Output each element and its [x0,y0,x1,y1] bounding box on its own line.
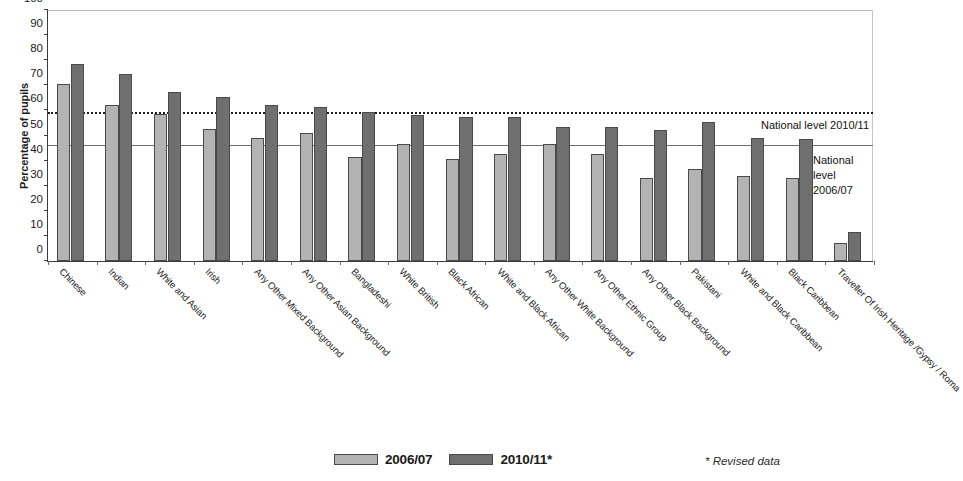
bar-group [203,10,230,261]
x-axis-label: Traveller Of Irish Heritage /Gypsy / Rom… [835,266,963,394]
y-tick-label: 20 [30,193,43,205]
bar-group [543,10,570,261]
legend-item: 2006/07 [334,452,432,467]
bar-group [591,10,618,261]
bar-series-2006 [446,159,459,261]
x-tick-mark [874,261,875,265]
y-tick-label: 30 [30,168,43,180]
bar-group [786,10,813,261]
y-tick-label: 10 [30,218,43,230]
bar-series-2010 [71,64,84,261]
x-tick-mark [582,261,583,265]
x-tick-mark [680,261,681,265]
bar-series-2006 [834,243,847,261]
x-axis-label: Any Other Mixed Background [252,266,346,360]
bar-series-2010 [556,127,569,261]
bar-series-2010 [702,122,715,261]
bar-group [640,10,667,261]
bar-group [688,10,715,261]
x-tick-mark [728,261,729,265]
x-axis-label: Indian [106,266,132,292]
bar-series-2010 [799,139,812,261]
x-axis-label: White and Asian [155,266,210,321]
x-axis-label: Any Other Black Background [641,266,733,358]
bar-group [494,10,521,261]
bar-series-2006 [737,176,750,261]
bar-group [737,10,764,261]
bar-series-2006 [154,114,167,261]
bar-series-2010 [265,105,278,261]
x-axis-label: Any Other Asian Background [300,266,392,358]
bar-series-2010 [654,130,667,261]
bar-series-2006 [397,144,410,261]
bar-series-2006 [57,84,70,261]
bar-series-2010 [848,232,861,261]
bar-group [446,10,473,261]
legend-item: 2010/11* [449,452,552,467]
y-tick-label: 90 [30,17,43,29]
x-tick-mark [485,261,486,265]
x-tick-mark [631,261,632,265]
chart-legend: 2006/072010/11* [334,452,552,467]
x-axis-label: White British [398,266,442,310]
legend-swatch [449,454,493,465]
x-tick-mark [340,261,341,265]
legend-label: 2006/07 [385,452,432,467]
bar-group [57,10,84,261]
y-tick-label: 0 [37,243,43,255]
bar-series-2010 [411,115,424,261]
legend-swatch [334,454,378,465]
x-tick-mark [145,261,146,265]
y-axis-title: Percentage of pupils [18,46,30,226]
bars-layer [48,10,873,261]
bar-series-2006 [348,157,361,261]
x-axis-label: Any Other White Background [543,266,636,359]
y-tick-label: 40 [30,143,43,155]
x-tick-mark [291,261,292,265]
x-axis-labels: ChineseIndianWhite and AsianIrishAny Oth… [47,266,873,416]
x-axis-label: Bangladeshi [349,266,393,310]
bar-series-2010 [216,97,229,261]
x-tick-mark [777,261,778,265]
bar-series-2010 [168,92,181,261]
bar-series-2006 [591,154,604,261]
bar-series-2006 [300,133,313,261]
x-tick-mark [388,261,389,265]
bar-series-2010 [119,74,132,261]
bar-series-2010 [605,127,618,261]
bar-series-2006 [203,129,216,261]
bar-series-2006 [640,178,653,261]
x-tick-mark [534,261,535,265]
bar-series-2010 [751,138,764,261]
bar-group [251,10,278,261]
bar-series-2010 [314,107,327,261]
bar-series-2006 [251,138,264,261]
y-tick-label: 70 [30,67,43,79]
x-tick-mark [97,261,98,265]
y-tick-label: 60 [30,92,43,104]
bar-series-2006 [105,105,118,261]
y-tick-label: 50 [30,118,43,130]
footnote: * Revised data [705,455,780,467]
x-axis-label: Black Caribbean [786,266,842,322]
x-axis-label: Irish [203,266,223,286]
x-tick-mark [194,261,195,265]
x-axis-label: White and Black Caribbean [738,266,825,353]
legend-label: 2010/11* [500,452,552,467]
bar-series-2006 [688,169,701,261]
x-axis-label: Pakistani [689,266,723,300]
x-axis-label: Chinese [58,266,90,298]
bar-series-2006 [543,144,556,261]
bar-group [105,10,132,261]
bar-group [348,10,375,261]
bar-group [834,10,861,261]
x-axis-label: Black African [446,266,492,312]
x-tick-mark [825,261,826,265]
x-tick-mark [242,261,243,265]
bar-group [300,10,327,261]
bar-group [397,10,424,261]
x-tick-mark [437,261,438,265]
plot-area: 0102030405060708090100 National level 20… [47,10,873,262]
y-tick-label: 100 [24,0,43,4]
